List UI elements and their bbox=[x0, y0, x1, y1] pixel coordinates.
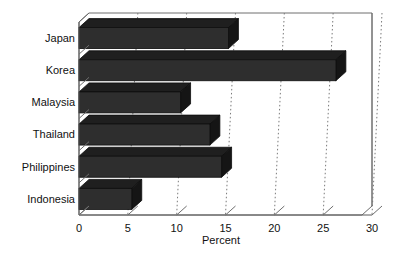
bar-front-face bbox=[79, 60, 336, 81]
bar bbox=[79, 51, 346, 81]
gridline-25 bbox=[323, 13, 333, 215]
x-tick-label-0: 0 bbox=[76, 222, 82, 234]
bar bbox=[79, 19, 238, 49]
x-tick-label-15: 15 bbox=[219, 222, 231, 234]
bar-front-face bbox=[79, 92, 181, 113]
bar bbox=[79, 115, 220, 145]
category-label-thailand: Thailand bbox=[33, 128, 75, 140]
x-tick-10 bbox=[177, 206, 187, 215]
chart-canvas: JapanKoreaMalaysiaThailandPhilippinesInd… bbox=[0, 0, 395, 257]
bars-group bbox=[79, 19, 346, 210]
x-tick-15 bbox=[226, 206, 236, 215]
category-label-korea: Korea bbox=[46, 64, 76, 76]
bar-top-face bbox=[79, 19, 238, 28]
category-label-japan: Japan bbox=[45, 32, 75, 44]
bar-chart: JapanKoreaMalaysiaThailandPhilippinesInd… bbox=[0, 0, 395, 257]
gridline-30 bbox=[372, 13, 382, 215]
bar-front-face bbox=[79, 28, 228, 49]
x-tick-25 bbox=[323, 206, 333, 215]
x-tick-label-20: 20 bbox=[268, 222, 280, 234]
bar-top-face bbox=[79, 147, 232, 156]
bar-top-face bbox=[79, 179, 142, 188]
bar-front-face bbox=[79, 156, 222, 177]
bar-top-face bbox=[79, 51, 346, 60]
category-label-indonesia: Indonesia bbox=[27, 193, 76, 205]
bar bbox=[79, 83, 191, 113]
gridline-20 bbox=[274, 13, 284, 215]
x-tick-20 bbox=[274, 206, 284, 215]
bar-front-face bbox=[79, 124, 210, 145]
x-tick-labels: 051015202530 bbox=[76, 222, 378, 234]
x-tick-label-30: 30 bbox=[366, 222, 378, 234]
bar bbox=[79, 147, 232, 177]
category-label-philippines: Philippines bbox=[22, 161, 76, 173]
bar bbox=[79, 179, 142, 209]
x-tick-label-5: 5 bbox=[125, 222, 131, 234]
x-axis-title: Percent bbox=[202, 234, 240, 246]
bar-front-face bbox=[79, 188, 132, 209]
category-label-malaysia: Malaysia bbox=[32, 96, 76, 108]
bar-top-face bbox=[79, 83, 191, 92]
category-labels: JapanKoreaMalaysiaThailandPhilippinesInd… bbox=[22, 32, 76, 205]
bar-top-face bbox=[79, 115, 220, 124]
x-tick-30 bbox=[372, 206, 382, 215]
x-tick-label-10: 10 bbox=[171, 222, 183, 234]
x-tick-label-25: 25 bbox=[317, 222, 329, 234]
